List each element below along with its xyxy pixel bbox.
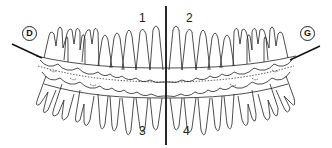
left-side-pointer-line (290, 46, 320, 60)
quadrant-4-label: 4 (183, 125, 190, 137)
upper-left-teeth (44, 26, 163, 70)
quadrant-2-label: 2 (186, 12, 193, 24)
quadrant-3-label: 3 (139, 125, 146, 137)
quadrant-1-label: 1 (139, 12, 146, 24)
left-side-marker: G (300, 26, 315, 41)
right-side-pointer-line (12, 44, 42, 58)
upper-right-teeth (169, 26, 288, 70)
right-side-marker: D (22, 26, 37, 41)
dental-arch-drawing (0, 0, 332, 148)
